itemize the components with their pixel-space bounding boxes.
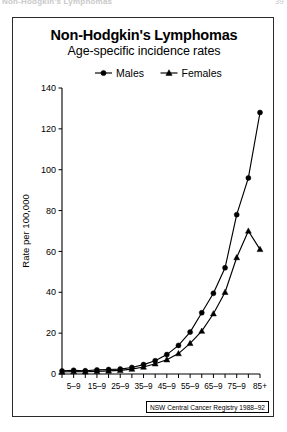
running-header-right: 39 (275, 0, 284, 6)
x-tick-label: 25–9 (111, 382, 130, 391)
plot-area: MalesFemales 020406080100120140 5–915–92… (13, 18, 275, 418)
figure-panel: Non-Hodgkin's Lymphomas Age-specific inc… (12, 17, 274, 417)
y-tick-label: 140 (41, 83, 56, 93)
legend-item-females: Females (161, 67, 222, 79)
y-tick-label: 80 (46, 206, 56, 216)
y-tick-label: 40 (46, 287, 56, 297)
line-chart-svg: MalesFemales 020406080100120140 5–915–92… (13, 18, 275, 418)
y-tick-label: 120 (41, 124, 56, 134)
data-point-females (234, 254, 240, 259)
x-tick-label: 65–9 (204, 382, 223, 391)
chart-legend: MalesFemales (95, 67, 222, 79)
y-tick-label: 20 (46, 328, 56, 338)
data-point-males (258, 110, 263, 115)
legend-label: Females (182, 67, 222, 79)
x-tick-label: 85+ (253, 382, 267, 391)
x-tick-label: 55–9 (181, 382, 200, 391)
data-point-males (211, 291, 216, 296)
y-axis-label: Rate per 100,000 (20, 194, 31, 267)
y-axis: 020406080100120140 (41, 83, 62, 379)
running-header: Non-Hodgkin's Lymphomas 39 (0, 0, 287, 9)
running-header-left: Non-Hodgkin's Lymphomas (2, 0, 112, 6)
series-line-males (62, 113, 260, 371)
legend-label: Males (116, 67, 144, 79)
data-point-males (234, 212, 239, 217)
data-point-females (164, 357, 170, 362)
data-point-males (188, 330, 193, 335)
y-tick-label: 100 (41, 165, 56, 175)
data-series-group (59, 110, 263, 374)
x-tick-label: 35–9 (134, 382, 153, 391)
x-tick-label: 45–9 (158, 382, 177, 391)
x-tick-label: 15–9 (88, 382, 107, 391)
data-point-males (176, 343, 181, 348)
data-point-males (199, 310, 204, 315)
legend-item-males: Males (95, 67, 144, 79)
data-point-males (246, 175, 251, 180)
data-point-females (210, 311, 216, 316)
x-tick-label: 5–9 (67, 382, 81, 391)
legend-marker-circle-icon (101, 70, 106, 75)
y-tick-label: 0 (51, 369, 56, 379)
source-note: NSW Central Cancer Registry 1988–92 (146, 401, 269, 413)
x-axis: 5–915–925–935–945–955–965–975–985+ (62, 374, 267, 391)
data-point-males (223, 265, 228, 270)
series-line-females (62, 231, 260, 372)
data-point-females (222, 289, 228, 294)
data-point-females (245, 228, 251, 233)
x-tick-label: 75–9 (228, 382, 247, 391)
y-tick-label: 60 (46, 247, 56, 257)
